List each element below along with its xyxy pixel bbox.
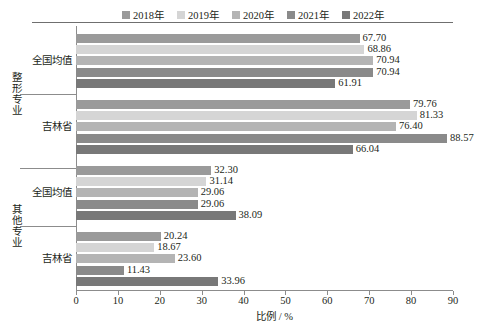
bar-2019年-全国均值[interactable]: [76, 45, 364, 54]
category-label-column: 整形专业全国均值吉林省其他专业全国均值吉林省: [6, 26, 76, 290]
legend-swatch-icon: [287, 11, 295, 19]
bar-group-row: 31.14: [76, 177, 453, 186]
legend-item-label: 2018年: [133, 10, 164, 21]
category-row-label: 吉林省: [42, 121, 72, 133]
x-tick-label: 30: [187, 295, 217, 307]
x-tick-label: 10: [103, 295, 133, 307]
bar-2021年-吉林省[interactable]: [76, 266, 124, 275]
bar-value-label: 31.14: [206, 175, 233, 187]
x-tick-label: 90: [438, 295, 468, 307]
plot-area: 67.7068.8670.9470.9461.9179.7681.3376.40…: [76, 26, 453, 290]
legend-swatch-icon: [342, 11, 350, 19]
bar-2018年-全国均值[interactable]: [76, 166, 211, 175]
x-tick-label: 40: [229, 295, 259, 307]
bar-2021年-吉林省[interactable]: [76, 134, 447, 143]
bar-2018年-吉林省[interactable]: [76, 100, 410, 109]
bar-group-row: 38.09: [76, 211, 453, 220]
category-row-label: 全国均值: [32, 55, 72, 67]
legend-item-label: 2021年: [298, 10, 329, 21]
bar-value-label: 11.43: [124, 264, 150, 276]
bar-value-label: 76.40: [396, 120, 423, 132]
bar-value-label: 61.91: [335, 77, 362, 89]
x-tick-label: 70: [354, 295, 384, 307]
bar-group-row: 70.94: [76, 68, 453, 77]
bar-2019年-全国均值[interactable]: [76, 177, 206, 186]
bar-2022年-吉林省[interactable]: [76, 145, 353, 154]
bar-group-row: 70.94: [76, 56, 453, 65]
legend-item-2022年[interactable]: 2022年: [342, 10, 384, 21]
bar-2020年-吉林省[interactable]: [76, 122, 396, 131]
bar-group-row: 67.70: [76, 34, 453, 43]
bar-group-row: 88.57: [76, 134, 453, 143]
bar-group-row: 20.24: [76, 232, 453, 241]
bar-2018年-吉林省[interactable]: [76, 232, 161, 241]
category-row-label: 全国均值: [32, 187, 72, 199]
category-row-label: 吉林省: [42, 253, 72, 265]
category-group-label: 其他专业: [8, 166, 22, 286]
bar-value-label: 38.09: [236, 209, 263, 221]
bar-value-label: 29.06: [198, 186, 225, 198]
bar-2022年-吉林省[interactable]: [76, 277, 218, 286]
x-tick-label: 80: [396, 295, 426, 307]
bar-group-row: 68.86: [76, 45, 453, 54]
bar-2020年-全国均值[interactable]: [76, 56, 373, 65]
bar-group-row: 81.33: [76, 111, 453, 120]
bar-value-label: 70.94: [373, 54, 400, 66]
bar-value-label: 29.06: [198, 198, 225, 210]
bar-2019年-吉林省[interactable]: [76, 111, 417, 120]
category-group-divider: [20, 226, 76, 227]
bar-group-row: 18.67: [76, 243, 453, 252]
bar-value-label: 23.60: [175, 252, 202, 264]
bar-value-label: 20.24: [161, 230, 188, 242]
legend-item-label: 2022年: [353, 10, 384, 21]
bar-value-label: 33.96: [218, 275, 245, 287]
legend-item-label: 2020年: [243, 10, 274, 21]
bar-group-row: 11.43: [76, 266, 453, 275]
legend-swatch-icon: [232, 11, 240, 19]
bar-2020年-吉林省[interactable]: [76, 254, 175, 263]
bar-value-label: 81.33: [417, 109, 444, 121]
category-group-divider: [20, 168, 76, 169]
bar-2021年-全国均值[interactable]: [76, 68, 373, 77]
legend-item-2019年[interactable]: 2019年: [177, 10, 219, 21]
x-axis-title: 比例 / %: [0, 311, 495, 323]
x-tick-label: 60: [312, 295, 342, 307]
bar-value-label: 68.86: [364, 43, 391, 55]
bar-value-label: 32.30: [211, 164, 238, 176]
bar-group-row: 33.96: [76, 277, 453, 286]
bar-value-label: 67.70: [360, 32, 387, 44]
x-tick-label: 20: [145, 295, 175, 307]
legend-item-2018年[interactable]: 2018年: [122, 10, 164, 21]
bar-value-label: 66.04: [353, 143, 380, 155]
x-tick-label: 0: [61, 295, 91, 307]
category-group-divider: [20, 94, 76, 95]
bar-2018年-全国均值[interactable]: [76, 34, 360, 43]
chart-legend: 2018年2019年2020年2021年2022年: [122, 7, 412, 23]
bar-group-row: 29.06: [76, 188, 453, 197]
x-tick-label: 50: [270, 295, 300, 307]
bar-2019年-吉林省[interactable]: [76, 243, 154, 252]
legend-item-2020年[interactable]: 2020年: [232, 10, 274, 21]
legend-swatch-icon: [122, 11, 130, 19]
bar-2021年-全国均值[interactable]: [76, 200, 198, 209]
bar-value-label: 70.94: [373, 66, 400, 78]
bar-group-row: 66.04: [76, 145, 453, 154]
bar-2020年-全国均值[interactable]: [76, 188, 198, 197]
legend-item-2021年[interactable]: 2021年: [287, 10, 329, 21]
bar-group-row: 23.60: [76, 254, 453, 263]
x-axis-tick-labels: 0102030405060708090: [0, 295, 495, 309]
bar-group-row: 79.76: [76, 100, 453, 109]
bar-group-row: 29.06: [76, 200, 453, 209]
bar-group-row: 61.91: [76, 79, 453, 88]
bar-value-label: 88.57: [447, 132, 474, 144]
bar-2022年-全国均值[interactable]: [76, 211, 236, 220]
bar-value-label: 79.76: [410, 98, 437, 110]
bar-chart-figure: 2018年2019年2020年2021年2022年 整形专业全国均值吉林省其他专…: [0, 0, 495, 335]
bar-group-row: 76.40: [76, 122, 453, 131]
bar-group-row: 32.30: [76, 166, 453, 175]
legend-swatch-icon: [177, 11, 185, 19]
category-group-label: 整形专业: [8, 34, 22, 154]
bar-2022年-全国均值[interactable]: [76, 79, 335, 88]
legend-item-label: 2019年: [188, 10, 219, 21]
bar-value-label: 18.67: [154, 241, 181, 253]
